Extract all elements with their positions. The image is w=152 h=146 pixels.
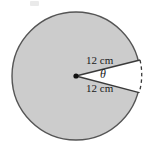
circle-sector-diagram <box>0 0 152 146</box>
radius-label-bottom: 12 cm <box>86 83 113 94</box>
geometry-figure: 12 cm 12 cm θ <box>0 0 152 146</box>
center-dot <box>73 73 78 78</box>
angle-label-theta: θ <box>100 68 106 80</box>
radius-label-top: 12 cm <box>86 55 113 66</box>
